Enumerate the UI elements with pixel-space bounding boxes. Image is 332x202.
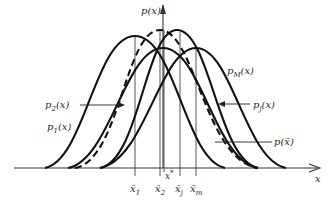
distribution-diagram: p(x) x p2(x) p1(x) pM(x) pj(x) p(x̄) x̄1… <box>0 0 332 202</box>
label-x1: x̄1 <box>130 183 140 197</box>
label-x2: x̄2 <box>155 183 166 197</box>
label-p1: p1(x) <box>47 121 71 135</box>
leader-pj <box>218 101 250 107</box>
label-xj: x̄j <box>175 183 184 197</box>
label-p2: p2(x) <box>45 99 69 113</box>
label-xstar: x* <box>165 169 174 181</box>
y-axis-label: p(x) <box>141 5 161 16</box>
x-axis-label: x <box>315 173 321 184</box>
label-pM: pM(x) <box>227 65 254 79</box>
label-pj: pj(x) <box>253 99 275 113</box>
label-xm: x̄m <box>190 183 203 197</box>
label-p-xbar: p(x̄) <box>274 136 294 147</box>
